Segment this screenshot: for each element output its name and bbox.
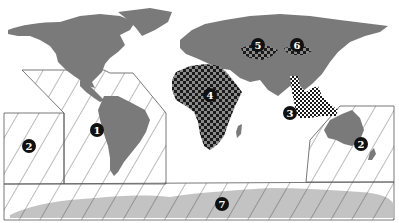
marker-5-label: 5 xyxy=(255,40,262,51)
marker-4: 4 xyxy=(203,88,217,102)
marker-5: 5 xyxy=(251,38,265,52)
marker-6: 6 xyxy=(290,38,304,52)
marker-7: 7 xyxy=(215,197,229,211)
marker-3-label: 3 xyxy=(287,108,294,119)
marker-7-label: 7 xyxy=(219,199,226,210)
marker-2-left: 2 xyxy=(22,139,36,153)
world-map: 1 2 2 3 4 5 6 7 xyxy=(0,0,399,223)
marker-1-label: 1 xyxy=(94,125,101,136)
marker-2-right: 2 xyxy=(354,137,368,151)
marker-1: 1 xyxy=(90,123,104,137)
region-4-africa xyxy=(172,64,242,150)
marker-2-left-label: 2 xyxy=(26,141,33,152)
region-3-southeast-asia xyxy=(290,76,338,118)
marker-4-label: 4 xyxy=(207,90,214,101)
marker-3: 3 xyxy=(283,106,297,120)
marker-2-right-label: 2 xyxy=(358,139,365,150)
madagascar xyxy=(236,124,242,138)
marker-6-label: 6 xyxy=(294,40,301,51)
